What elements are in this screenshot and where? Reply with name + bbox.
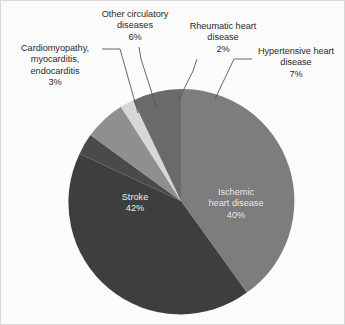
pie-label-ischemic-heart-disease: Ischemic heart disease 40% (191, 187, 281, 221)
pie-label-cardiomyopathy: Cardiomyopathy, myocarditis, endocarditi… (3, 43, 107, 89)
pie-label-stroke: Stroke 42% (93, 192, 177, 215)
pie-chart-frame: Cardiomyopathy, myocarditis, endocarditi… (0, 0, 345, 325)
pie-label-hypertensive-heart-disease: Hypertensive heart disease 7% (248, 46, 344, 80)
leader-line-hypertensive-heart-disease (215, 59, 252, 99)
pie-label-other-circulatory-diseases: Other circulatory diseases 6% (85, 9, 185, 43)
